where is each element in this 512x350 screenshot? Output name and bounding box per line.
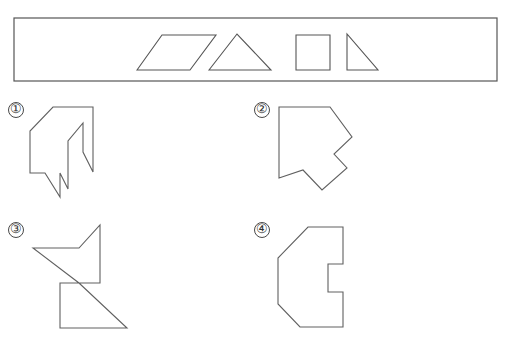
candidate-2-shape[interactable] xyxy=(279,107,352,190)
candidate-option-3[interactable]: ③ xyxy=(9,221,128,328)
piece-bank-border xyxy=(14,18,497,81)
bank-piece-triangle-right[interactable] xyxy=(347,34,378,70)
candidate-4-shape[interactable] xyxy=(278,227,343,327)
candidate-1-shape[interactable] xyxy=(30,107,93,197)
candidate-3-shape[interactable] xyxy=(33,225,127,328)
piece-bank xyxy=(14,18,497,81)
puzzle-canvas: ① ② ③ ④ xyxy=(0,0,512,350)
candidate-option-1[interactable]: ① xyxy=(9,101,94,197)
candidate-option-4[interactable]: ④ xyxy=(255,221,344,327)
bank-piece-square[interactable] xyxy=(296,35,330,70)
bank-piece-triangle-isosceles[interactable] xyxy=(209,34,271,70)
candidate-option-2[interactable]: ② xyxy=(255,101,353,190)
puzzle-page: ① ② ③ ④ xyxy=(0,0,512,350)
bank-piece-parallelogram[interactable] xyxy=(137,35,216,70)
